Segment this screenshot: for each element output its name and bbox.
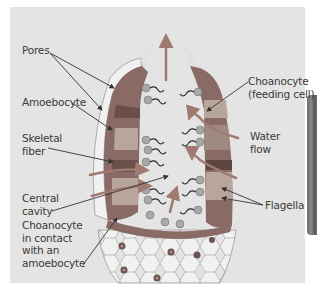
label-choanocyte-contact: Choanocyte in contact with an amoebocyte: [22, 219, 85, 269]
choanocytes-left: [142, 84, 184, 228]
label-central-cavity: Central cavity: [22, 192, 59, 217]
flagella-right: [180, 91, 196, 214]
label-pores: Pores: [22, 44, 49, 57]
choanocytes-right: [194, 88, 204, 214]
label-flagella: Flagella: [265, 199, 304, 212]
flagella-left: [150, 87, 166, 204]
label-amoebocyte: Amoebocyte: [22, 96, 86, 109]
label-skeletal-fiber: Skeletal fiber: [22, 132, 62, 157]
label-water-flow: Water flow: [250, 130, 280, 155]
label-choanocyte: Choanocyte (feeding cell): [248, 75, 314, 100]
spicules: [140, 44, 195, 66]
